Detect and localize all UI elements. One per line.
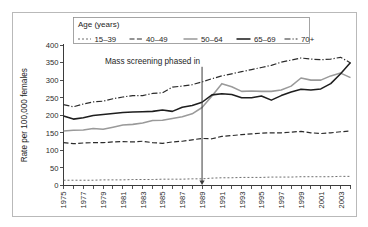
axes-group: 0501001502002503003504001975197719791981…	[20, 41, 351, 209]
legend-label-40-49: 40–49	[146, 35, 168, 44]
x-tick-label: 1995	[257, 192, 266, 209]
x-tick-label: 1983	[139, 192, 148, 209]
annotation-label: Mass screening phased in	[105, 57, 201, 66]
y-tick-label: 100	[46, 146, 59, 155]
series-line-65-69	[64, 63, 351, 120]
legend-label-65-69: 65–69	[254, 35, 276, 44]
legend: Age (years)15–3940–4950–6465–6970+	[74, 18, 315, 45]
y-tick-label: 350	[46, 58, 59, 67]
y-tick-label: 0	[54, 181, 58, 190]
y-tick-label: 400	[46, 41, 59, 50]
legend-label-15-39: 15–39	[95, 35, 117, 44]
x-tick-label: 1999	[297, 192, 306, 209]
y-tick-label: 200	[46, 111, 59, 120]
series-line-40-49	[64, 131, 351, 144]
legend-label-70+: 70+	[301, 35, 315, 44]
legend-label-50-64: 50–64	[201, 35, 223, 44]
x-tick-label: 1989	[198, 192, 207, 209]
y-axis-title: Rate per 100,000 females	[20, 68, 29, 162]
x-tick-label: 1997	[277, 192, 286, 209]
legend-title: Age (years)	[78, 20, 120, 29]
series-line-50-64	[64, 73, 351, 131]
x-tick-label: 1979	[99, 192, 108, 209]
x-tick-label: 2003	[337, 192, 346, 209]
y-tick-label: 50	[50, 164, 58, 173]
series-line-15-39	[64, 176, 351, 180]
y-tick-label: 250	[46, 94, 59, 103]
annotation-arrow-head	[199, 180, 204, 185]
x-tick-label: 1991	[218, 192, 227, 209]
x-tick-label: 1987	[178, 192, 187, 209]
x-tick-label: 1981	[119, 192, 128, 209]
x-tick-label: 1985	[158, 192, 167, 209]
y-tick-label: 300	[46, 76, 59, 85]
x-tick-label: 1977	[79, 192, 88, 209]
x-tick-label: 2001	[317, 192, 326, 209]
x-tick-label: 1993	[238, 192, 247, 209]
data-series-group	[64, 57, 351, 180]
x-tick-label: 1975	[59, 192, 68, 209]
line-chart: 0501001502002503003504001975197719791981…	[0, 0, 368, 227]
y-tick-label: 150	[46, 129, 59, 138]
chart-figure: 0501001502002503003504001975197719791981…	[0, 0, 368, 227]
